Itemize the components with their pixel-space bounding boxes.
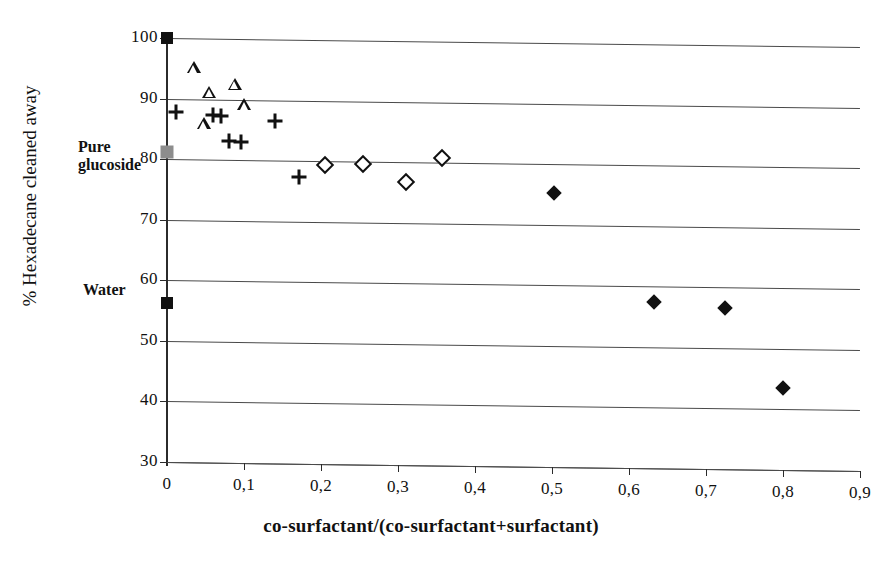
data-point-open-triangle [187,61,201,73]
x-tick-label: 0,9 [830,483,875,503]
x-tick-mark [783,470,784,477]
y-tick-mark [160,462,167,463]
x-axis-line [167,462,860,472]
y-tick-label: 30 [114,451,158,471]
data-point-reference-markers [161,32,173,44]
gridline [167,341,860,351]
annotation-pure-glucoside-line1: Pure [78,138,164,156]
y-axis-title: % Hexadecane cleaned away [19,26,41,366]
gridline [167,99,860,109]
x-tick-mark [475,466,476,473]
x-tick-mark [244,463,245,470]
x-tick-mark [321,464,322,471]
x-axis-title: co-surfactant/(co-surfactant+surfactant) [0,515,862,537]
data-point-plus [267,113,282,128]
x-tick-mark [552,467,553,474]
data-point-open-triangle [237,98,251,110]
x-tick-label: 0,7 [676,481,736,501]
x-tick-label: 0,5 [522,479,582,499]
x-tick-mark [398,465,399,472]
y-tick-mark [160,99,167,100]
annotation-pure-glucoside-line2: glucoside [78,156,164,174]
data-point-plus [169,105,184,120]
data-point-plus [213,109,228,124]
x-tick-mark [706,469,707,476]
plot-area [167,38,860,462]
gridlines [167,38,860,462]
data-point-open-triangle [228,78,242,90]
data-point-plus [233,134,248,149]
x-tick-label: 0,6 [599,480,659,500]
x-tick-label: 0,2 [291,476,351,496]
y-tick-mark [160,341,167,342]
y-tick-mark [160,401,167,402]
y-tick-label: 100 [114,27,158,47]
y-tick-label: 40 [114,390,158,410]
y-tick-label: 50 [114,330,158,350]
gridline [167,220,860,230]
y-tick-label: 70 [114,209,158,229]
x-tick-mark [629,468,630,475]
x-tick-label: 0,8 [753,482,813,502]
gridline [167,38,860,48]
data-point-plus [292,169,307,184]
data-point-open-triangle [202,86,216,98]
gridline [167,401,860,411]
annotation-pure-glucoside: Pure glucoside [78,138,164,174]
gridline [167,280,860,290]
y-tick-label: 90 [114,88,158,108]
annotation-water: Water [83,281,163,299]
x-tick-mark [860,471,861,478]
x-tick-label: 0 [137,474,197,494]
x-tick-label: 0,3 [368,477,428,497]
x-tick-label: 0,1 [214,475,274,495]
y-tick-mark [160,220,167,221]
gridline [167,159,860,169]
data-point-reference-markers [161,297,173,309]
x-tick-label: 0,4 [445,478,505,498]
